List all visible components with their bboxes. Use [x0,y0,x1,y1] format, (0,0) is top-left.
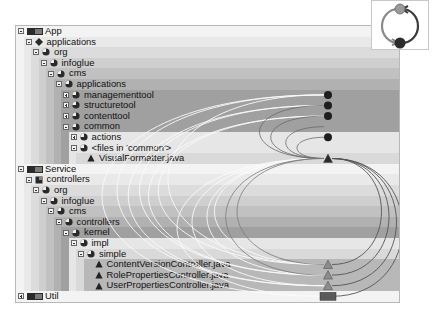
dependency-arc [177,159,324,297]
dependency-arc [102,95,324,296]
class-node-icon[interactable] [324,260,333,269]
package-node-icon[interactable] [324,91,332,99]
dependency-arc [215,159,325,265]
dependency-arc [332,159,382,265]
dependency-arc [260,106,325,159]
dependency-arcs [16,26,399,302]
package-node-icon[interactable] [324,133,332,141]
class-node-icon[interactable] [324,154,333,163]
package-node-icon[interactable] [324,102,332,110]
package-node-icon[interactable] [324,112,332,120]
dependency-arc [237,159,324,265]
dependency-tree-panel: Appapplicationsorginfogluecmsapplication… [15,25,400,303]
dependency-arc [128,106,324,286]
class-node-icon[interactable] [324,281,333,290]
dependency-arc [286,127,324,159]
layer-node-icon[interactable] [320,292,336,300]
dependency-arc [117,95,324,286]
dependency-arc [332,159,399,297]
cycle-legend-icon [371,0,429,50]
class-node-icon[interactable] [324,271,333,280]
dependency-arc [158,116,324,264]
